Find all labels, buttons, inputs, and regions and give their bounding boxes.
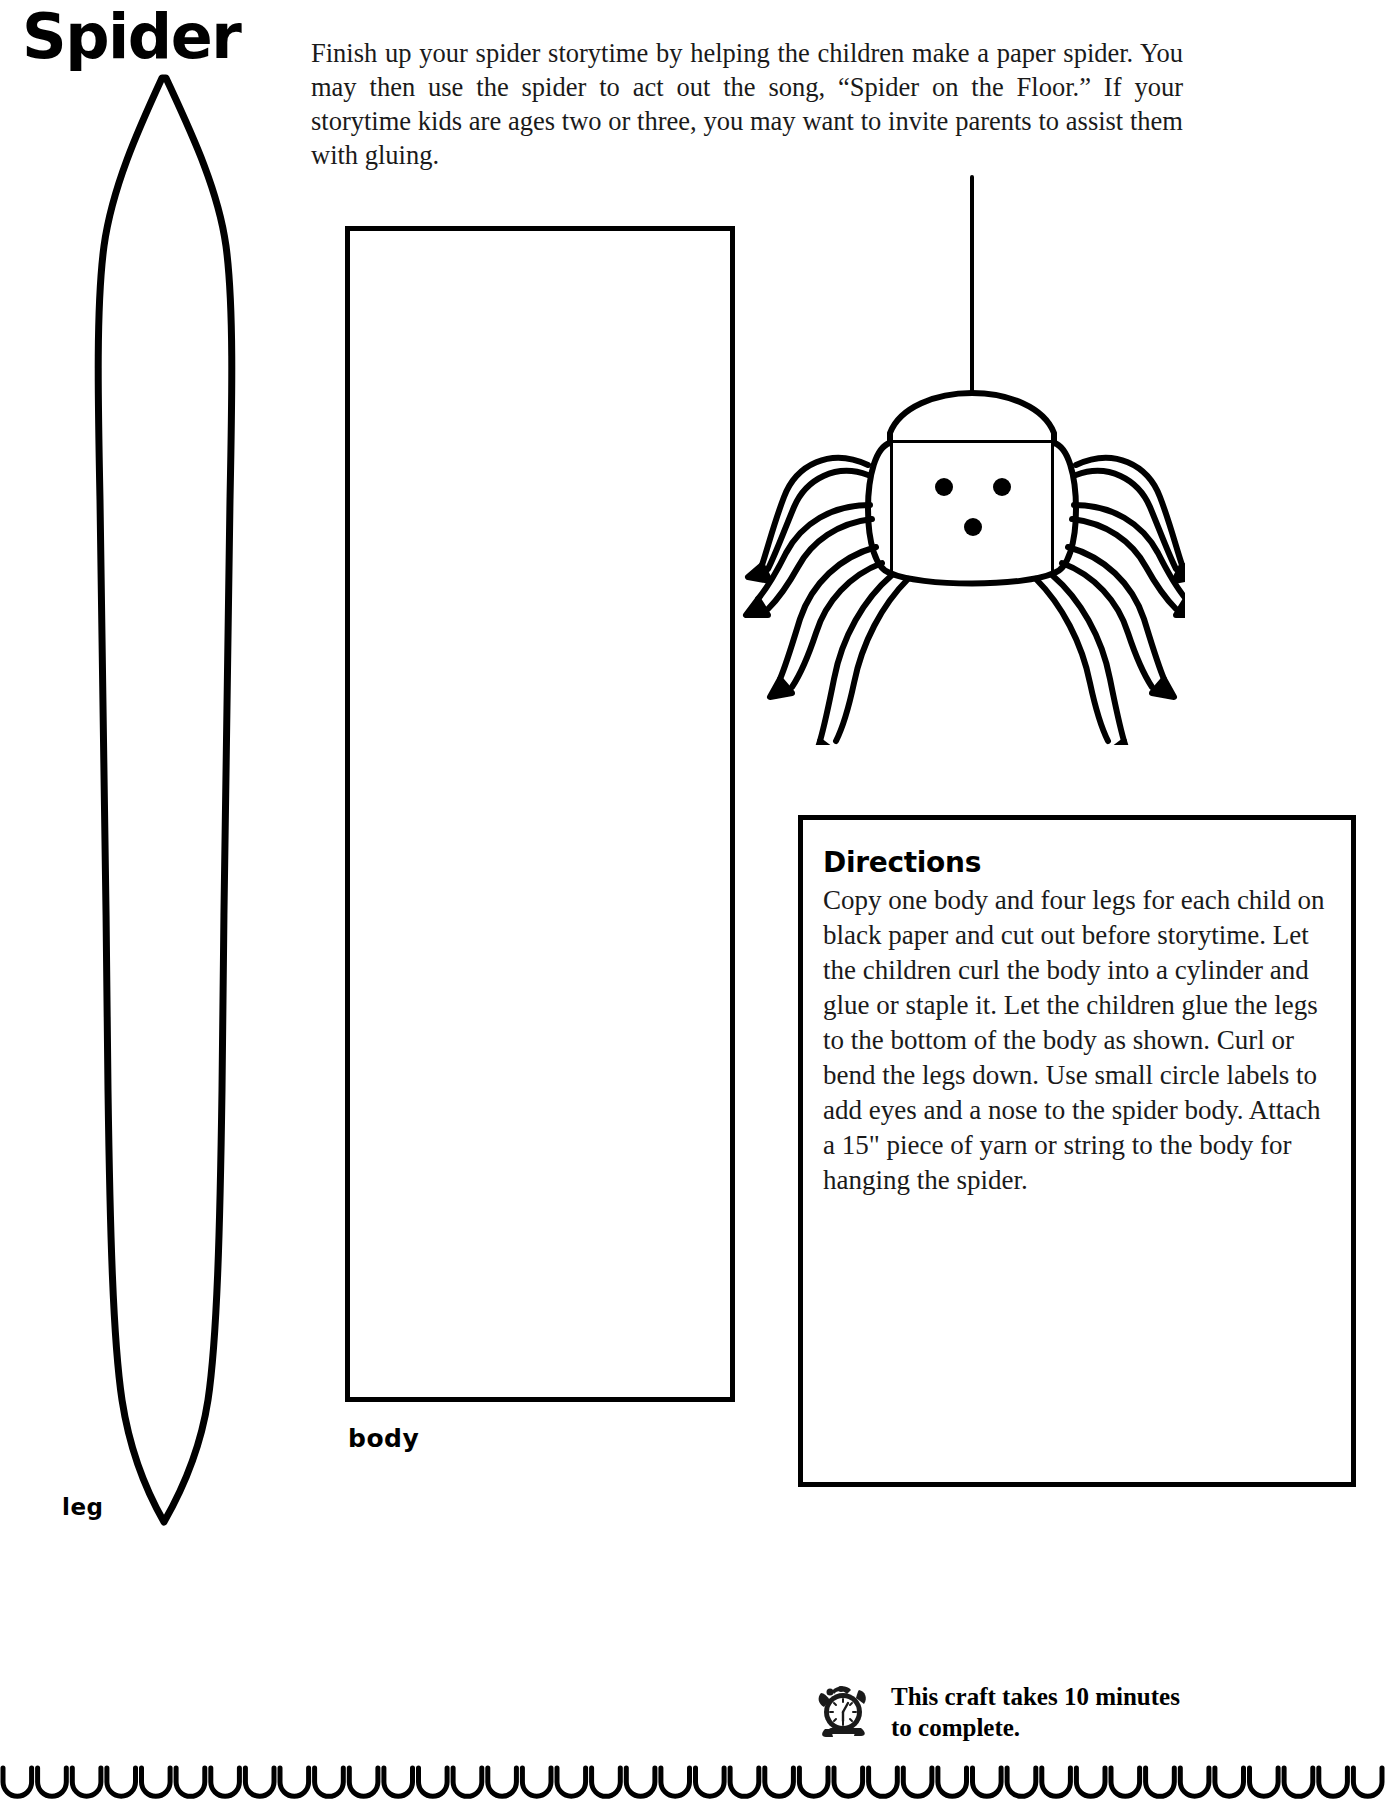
alarm-clock-icon: [815, 1683, 873, 1741]
intro-paragraph: Finish up your spider storytime by helpi…: [311, 36, 1183, 172]
scallop-arc: [453, 1768, 482, 1796]
spider-illustration: [740, 175, 1185, 745]
scallop-arc: [869, 1768, 898, 1796]
page-title: Spider: [22, 6, 240, 68]
scallop-arc: [696, 1768, 725, 1796]
scallop-arc: [142, 1768, 171, 1796]
scallop-arc: [315, 1768, 344, 1796]
spider-body-top: [890, 393, 1054, 443]
spider-leg-tip-right-3: [1152, 679, 1174, 697]
scallop-arc: [903, 1768, 932, 1796]
scallop-border-decoration: [0, 1762, 1385, 1808]
scallop-arc: [973, 1768, 1002, 1796]
scallop-arc: [557, 1768, 586, 1796]
leg-template-shape: [60, 70, 280, 1530]
scallop-arc: [245, 1768, 274, 1796]
scallop-arc: [349, 1768, 378, 1796]
scallop-arc: [1076, 1768, 1105, 1796]
spider-leg-tip-left-2: [746, 599, 768, 615]
scallop-arc: [1146, 1768, 1175, 1796]
scallop-arc: [280, 1768, 309, 1796]
craft-worksheet-page: Spider Finish up your spider storytime b…: [0, 0, 1385, 1808]
scallop-arc: [1215, 1768, 1244, 1796]
directions-text: Copy one body and four legs for each chi…: [823, 883, 1333, 1198]
scallop-arc: [1353, 1768, 1382, 1796]
scallop-arc: [1180, 1768, 1209, 1796]
scallop-arc: [176, 1768, 205, 1796]
scallop-arc: [938, 1768, 967, 1796]
directions-heading: Directions: [823, 846, 981, 879]
scallop-arc: [661, 1768, 690, 1796]
spider-body-face: [890, 443, 1054, 584]
scallop-arc: [626, 1768, 655, 1796]
leg-template-label: leg: [62, 1494, 103, 1520]
scallop-arc: [834, 1768, 863, 1796]
body-template-outline: [345, 226, 735, 1402]
scallop-arc: [1111, 1768, 1140, 1796]
body-template-label: body: [348, 1424, 419, 1453]
spider-leg-tip-left-3: [770, 679, 792, 697]
spider-nose: [964, 518, 982, 536]
scallop-arc: [107, 1768, 136, 1796]
scallop-arc: [1284, 1768, 1313, 1796]
craft-time-note: This craft takes 10 minutes to complete.: [815, 1681, 1181, 1743]
scallop-arc: [730, 1768, 759, 1796]
spider-leg-tip-right-4: [1108, 741, 1130, 745]
scallop-arc: [419, 1768, 448, 1796]
spider-eye-right: [993, 478, 1011, 496]
scallop-arc: [38, 1768, 67, 1796]
scallop-arc: [488, 1768, 517, 1796]
scallop-arc: [72, 1768, 101, 1796]
spider-leg-left-4b: [836, 579, 908, 741]
scallop-arc: [384, 1768, 413, 1796]
scallop-arc: [592, 1768, 621, 1796]
spider-leg-right-4b: [1036, 579, 1108, 741]
spider-drawing: [740, 175, 1185, 745]
craft-time-text: This craft takes 10 minutes to complete.: [891, 1681, 1181, 1743]
directions-box: Directions Copy one body and four legs f…: [798, 815, 1356, 1487]
scallop-arc: [799, 1768, 828, 1796]
spider-body-left-band: [868, 443, 890, 573]
spider-eye-left: [935, 478, 953, 496]
scallop-arc: [765, 1768, 794, 1796]
scallop-arc: [211, 1768, 240, 1796]
scallop-arc: [1042, 1768, 1071, 1796]
spider-body-right-band: [1054, 443, 1076, 573]
leg-template-outline: [60, 70, 280, 1530]
spider-leg-tip-left-4: [814, 741, 836, 745]
scallop-arc: [1250, 1768, 1279, 1796]
scallop-arc: [1007, 1768, 1036, 1796]
scallop-arc: [1319, 1768, 1348, 1796]
scallop-arc: [522, 1768, 551, 1796]
scallop-arc: [3, 1768, 32, 1796]
